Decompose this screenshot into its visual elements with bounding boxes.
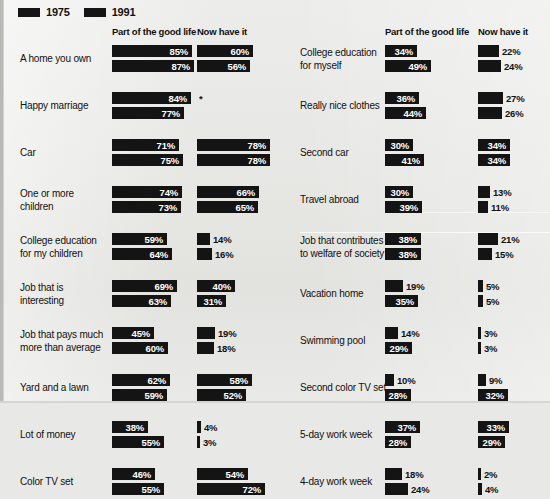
bar: 65% bbox=[197, 201, 258, 213]
chart-legend: 1975 1991 bbox=[18, 4, 143, 20]
bar-row: 27% bbox=[478, 92, 524, 104]
bar-value-label: 19% bbox=[218, 328, 236, 339]
bar-group-good-life: 59%64% bbox=[112, 233, 172, 263]
bar-value-label: 38% bbox=[399, 249, 417, 260]
bar: 75% bbox=[112, 154, 183, 166]
chart-category-row: Really nice clothes36%44%27%26% bbox=[292, 86, 550, 133]
bar: 46% bbox=[112, 468, 155, 480]
chart-category-row: 5-day work week37%28%33%29% bbox=[292, 415, 550, 462]
bar-value-label: 54% bbox=[226, 469, 244, 480]
bar-value-label: 41% bbox=[402, 155, 420, 166]
category-label: 4-day work week bbox=[300, 476, 372, 489]
bar-group-now-have-it: 9%32% bbox=[478, 374, 508, 404]
bar bbox=[385, 280, 403, 292]
bar-value-label: 4% bbox=[485, 484, 498, 495]
bar-group-now-have-it: 19%18% bbox=[197, 327, 236, 357]
bar bbox=[478, 468, 481, 480]
bar bbox=[478, 342, 481, 354]
bar-row: 63% bbox=[112, 295, 177, 307]
bar-value-label: 5% bbox=[486, 296, 499, 307]
chart-category-row: A home you own85%87%60%56% bbox=[0, 39, 292, 86]
bar-value-label: 10% bbox=[397, 375, 415, 386]
bar-value-label: 2% bbox=[484, 469, 497, 480]
bar-value-label: 46% bbox=[133, 469, 151, 480]
legend-label-1991: 1991 bbox=[112, 6, 144, 18]
bar-row: 77% bbox=[112, 107, 191, 119]
bar-group-good-life: 18%24% bbox=[385, 468, 429, 498]
bar: 63% bbox=[112, 295, 171, 307]
category-label: 5-day work week bbox=[300, 429, 372, 442]
bar-row: 21% bbox=[478, 233, 519, 245]
chart-category-row: Second car30%41%34%34% bbox=[292, 133, 550, 180]
bar: 38% bbox=[385, 233, 421, 245]
bar-row: 60% bbox=[112, 342, 168, 354]
chart-category-row: Job that contributes to welfare of socie… bbox=[292, 227, 550, 274]
bar-group-good-life: 69%63% bbox=[112, 280, 177, 310]
bar: 85% bbox=[112, 45, 192, 57]
bar-row: 34% bbox=[478, 154, 510, 166]
bar-row: 15% bbox=[478, 248, 519, 260]
bar: 34% bbox=[478, 154, 510, 166]
bar-value-label: 52% bbox=[224, 390, 242, 401]
bar-group-good-life: 14%29% bbox=[385, 327, 419, 357]
bar: 77% bbox=[112, 107, 184, 119]
chart-category-row: Lot of money38%55%4%3% bbox=[0, 415, 292, 462]
bar bbox=[385, 374, 394, 386]
bar-row: 38% bbox=[385, 248, 421, 260]
bar bbox=[385, 468, 402, 480]
bar-row: * bbox=[197, 92, 203, 104]
bar: 45% bbox=[112, 327, 154, 339]
chart-category-row: College education for my children59%64%1… bbox=[0, 227, 292, 274]
bar-value-label: 38% bbox=[126, 422, 144, 433]
bar-value-label: 87% bbox=[172, 61, 190, 72]
category-label: Lot of money bbox=[20, 429, 75, 442]
bar: 71% bbox=[112, 139, 179, 151]
bar-value-label: 21% bbox=[501, 234, 519, 245]
bar-group-now-have-it: 21%15% bbox=[478, 233, 519, 263]
bar: 54% bbox=[197, 468, 248, 480]
category-label: Job that contributes to welfare of socie… bbox=[300, 235, 384, 260]
bar-row: 4% bbox=[197, 421, 217, 433]
bar-row: 22% bbox=[478, 45, 522, 57]
chart-panel-right: Part of the good life Now have it Colleg… bbox=[292, 26, 550, 499]
bar-value-label: 28% bbox=[389, 390, 407, 401]
bar-value-label: 33% bbox=[487, 422, 505, 433]
bar-row: 58% bbox=[197, 374, 252, 386]
bar bbox=[478, 483, 482, 495]
bar-row: 18% bbox=[385, 468, 429, 480]
bar-value-label: 75% bbox=[161, 155, 179, 166]
bar-value-label: 19% bbox=[406, 281, 424, 292]
bar-row: 78% bbox=[197, 154, 270, 166]
bar-group-good-life: 10%28% bbox=[385, 374, 415, 404]
bar-row: 11% bbox=[478, 201, 511, 213]
bar bbox=[478, 45, 499, 57]
bar: 28% bbox=[385, 389, 411, 401]
bar-row: 38% bbox=[112, 421, 164, 433]
bar-row bbox=[197, 107, 203, 119]
chart-category-row: College education for myself34%49%22%24% bbox=[292, 39, 550, 86]
bar-row: 71% bbox=[112, 139, 183, 151]
bar-row: 4% bbox=[478, 483, 498, 495]
chart-category-row: Car71%75%78%78% bbox=[0, 133, 292, 180]
bar-value-label: 78% bbox=[248, 155, 266, 166]
bar bbox=[478, 60, 501, 72]
bar-row: 55% bbox=[112, 436, 164, 448]
bar-value-label: 9% bbox=[489, 375, 502, 386]
bar-row: 31% bbox=[197, 295, 235, 307]
bar: 44% bbox=[385, 107, 426, 119]
bar-group-good-life: 30%39% bbox=[385, 186, 422, 216]
bar-row: 2% bbox=[478, 468, 498, 480]
bar-value-label: 60% bbox=[146, 343, 164, 354]
bar-group-good-life: 62%59% bbox=[112, 374, 170, 404]
bar: 31% bbox=[197, 295, 226, 307]
bar-group-good-life: 30%41% bbox=[385, 139, 424, 169]
bar-group-now-have-it: 14%16% bbox=[197, 233, 233, 263]
bar-value-label: 36% bbox=[397, 93, 415, 104]
bar-group-good-life: 38%38% bbox=[385, 233, 421, 263]
bar-group-now-have-it: 78%78% bbox=[197, 139, 270, 169]
bar-row: 29% bbox=[478, 436, 509, 448]
bar-row: 3% bbox=[197, 436, 217, 448]
bar: 38% bbox=[112, 421, 148, 433]
category-label: College education for my children bbox=[20, 235, 97, 260]
category-label: Travel abroad bbox=[300, 194, 359, 207]
